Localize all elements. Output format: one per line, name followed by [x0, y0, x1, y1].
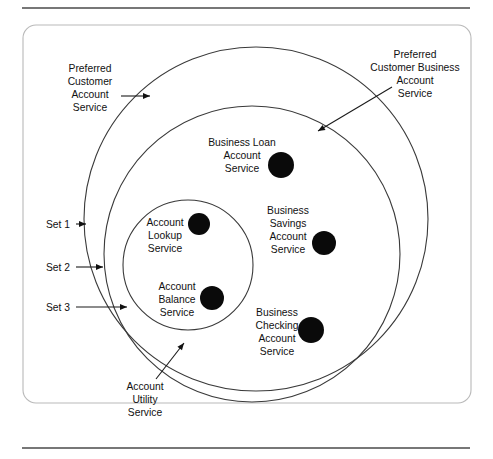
service-account-balance-service: AccountBalanceService — [158, 281, 224, 318]
service-label-business-loan-account-service-line-1: Account — [223, 150, 260, 161]
service-business-checking-account-service: BusinessCheckingAccountService — [256, 307, 324, 357]
set-label-set3: Set 3 — [46, 302, 127, 313]
callout-text-account-utility-service-line-0: Account — [126, 381, 163, 392]
service-label-account-lookup-service-line-2: Service — [148, 243, 183, 254]
set-label-text-set2-line-0: Set 2 — [46, 262, 70, 273]
callout-text-preferred-customer-account-service-line-2: Account — [71, 89, 108, 100]
callout-text-preferred-customer-business-account-service-line-0: Preferred — [394, 49, 437, 60]
set-label-text-set1-line-0: Set 1 — [46, 219, 70, 230]
callout-text-preferred-customer-account-service-line-0: Preferred — [69, 63, 112, 74]
callout-leader-preferred-customer-account-service-arrowhead-icon — [143, 93, 150, 99]
service-label-account-lookup-service-line-1: Lookup — [148, 230, 182, 241]
set-label-text-set2: Set 2 — [46, 262, 70, 273]
service-label-business-loan-account-service: Business LoanAccountService — [208, 137, 276, 174]
figure-page: Set 1Set 2Set 3 PreferredCustomerAccount… — [0, 0, 493, 459]
service-label-business-checking-account-service: BusinessCheckingAccountService — [256, 307, 299, 357]
service-label-business-savings-account-service: BusinessSavingsAccountService — [267, 205, 309, 255]
callout-preferred-customer-account-service: PreferredCustomerAccountService — [68, 63, 150, 113]
callout-text-account-utility-service-line-2: Service — [128, 407, 163, 418]
set-label-text-set1: Set 1 — [46, 219, 70, 230]
callout-text-preferred-customer-account-service: PreferredCustomerAccountService — [68, 63, 113, 113]
service-label-account-lookup-service-line-0: Account — [146, 217, 183, 228]
set-diagram: Set 1Set 2Set 3 PreferredCustomerAccount… — [0, 0, 493, 459]
callout-leader-preferred-customer-business-account-service — [318, 87, 392, 131]
service-dot-business-savings-account-service — [312, 231, 336, 255]
service-label-business-savings-account-service-line-1: Savings — [270, 218, 307, 229]
set-label-text-set3-line-0: Set 3 — [46, 302, 70, 313]
callout-text-preferred-customer-business-account-service-line-1: Customer Business — [370, 62, 459, 73]
service-label-account-lookup-service: AccountLookupService — [146, 217, 183, 254]
callout-leader-preferred-customer-business-account-service-arrowhead-icon — [318, 125, 325, 131]
service-label-business-savings-account-service-line-2: Account — [269, 231, 306, 242]
service-dot-business-loan-account-service — [268, 152, 294, 178]
callout-leader-account-utility-service-arrowhead-icon — [177, 343, 184, 350]
callout-text-preferred-customer-business-account-service-line-2: Account — [396, 75, 433, 86]
service-business-savings-account-service: BusinessSavingsAccountService — [267, 205, 336, 255]
set-label-leader-set1-arrowhead-icon — [79, 221, 86, 227]
set-label-leader-set2-arrowhead-icon — [96, 264, 103, 270]
set-label-text-set3: Set 3 — [46, 302, 70, 313]
callout-group: PreferredCustomerAccountServicePreferred… — [68, 49, 460, 418]
callout-text-preferred-customer-account-service-line-1: Customer — [68, 76, 113, 87]
callout-text-preferred-customer-account-service-line-3: Service — [73, 102, 108, 113]
service-label-account-balance-service: AccountBalanceService — [158, 281, 195, 318]
service-label-account-balance-service-line-1: Balance — [158, 294, 195, 305]
service-label-business-savings-account-service-line-0: Business — [267, 205, 309, 216]
service-label-business-checking-account-service-line-3: Service — [260, 346, 295, 357]
service-label-account-balance-service-line-2: Service — [160, 307, 195, 318]
callout-leader-preferred-customer-account-service — [121, 93, 150, 99]
set-label-leader-set2 — [76, 264, 103, 270]
set-label-set2: Set 2 — [46, 262, 103, 273]
set-label-leader-set3-arrowhead-icon — [120, 304, 127, 310]
service-label-business-savings-account-service-line-3: Service — [271, 244, 306, 255]
callout-text-account-utility-service-line-1: Utility — [132, 394, 158, 405]
set-label-set1: Set 1 — [46, 219, 86, 230]
service-label-business-loan-account-service-line-0: Business Loan — [208, 137, 276, 148]
service-dot-account-balance-service — [200, 286, 224, 310]
service-label-business-checking-account-service-line-0: Business — [256, 307, 298, 318]
service-label-business-checking-account-service-line-1: Checking — [256, 320, 299, 331]
service-business-loan-account-service: Business LoanAccountService — [208, 137, 294, 178]
service-dot-account-lookup-service — [188, 213, 210, 235]
set1-circle-preferred-customer-account-service — [84, 47, 428, 391]
callout-text-preferred-customer-business-account-service-line-3: Service — [398, 88, 433, 99]
set-label-group: Set 1Set 2Set 3 — [46, 219, 127, 313]
service-account-lookup-service: AccountLookupService — [146, 213, 210, 254]
service-label-business-loan-account-service-line-2: Service — [225, 163, 260, 174]
service-label-business-checking-account-service-line-2: Account — [258, 333, 295, 344]
service-group: Business LoanAccountServiceAccountLookup… — [146, 137, 336, 357]
service-label-account-balance-service-line-0: Account — [158, 281, 195, 292]
callout-leader-preferred-customer-business-account-service-line — [318, 87, 392, 131]
set-label-leader-set3 — [76, 304, 127, 310]
callout-preferred-customer-business-account-service: PreferredCustomer BusinessAccountService — [318, 49, 460, 131]
callout-text-account-utility-service: AccountUtilityService — [126, 381, 163, 418]
service-dot-business-checking-account-service — [298, 317, 324, 343]
